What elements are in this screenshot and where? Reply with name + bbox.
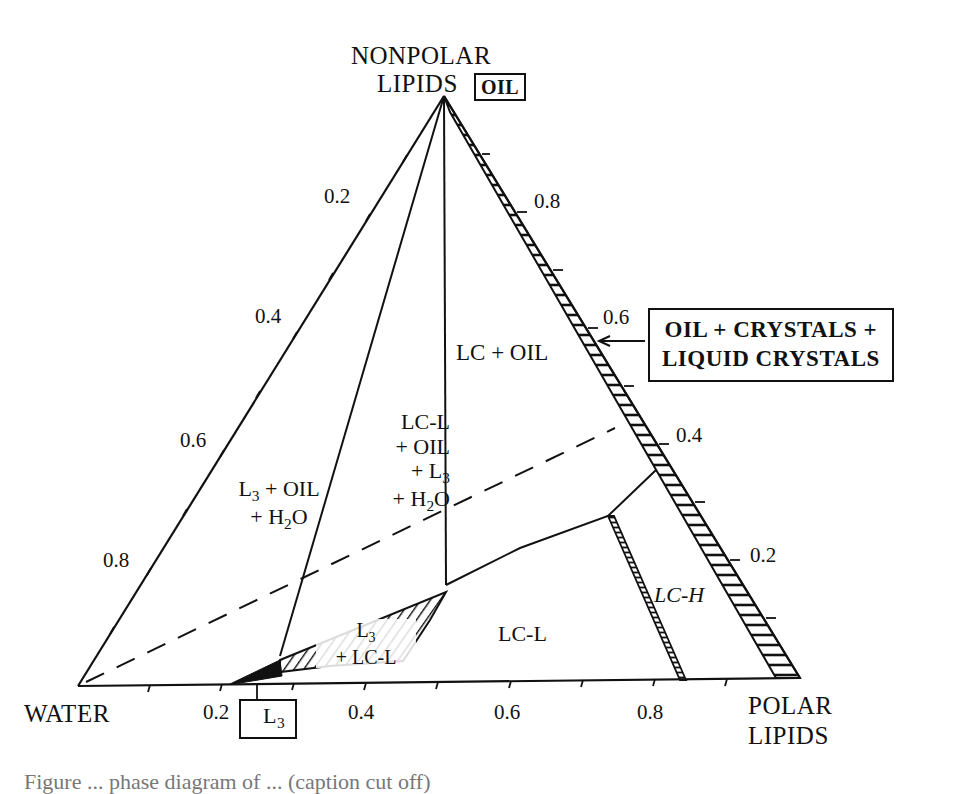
l3-box: L3	[239, 699, 297, 739]
tick-base-0.4: 0.4	[348, 702, 374, 723]
vertex-label-lipids-top: LIPIDS	[377, 71, 458, 96]
phase-boundaries	[280, 96, 656, 656]
figure-caption: Figure ... phase diagram of ... (caption…	[24, 771, 430, 793]
region-l3-oil-h2o: L3 + OIL + H2O	[214, 477, 344, 532]
region-lc-l: LC-L	[498, 622, 547, 647]
tick-left-0.2: 0.2	[324, 186, 350, 207]
oil-crystals-band	[444, 96, 800, 678]
oil-box: OIL	[474, 73, 526, 101]
tick-base-0.6: 0.6	[494, 702, 520, 723]
tick-left-0.4: 0.4	[255, 306, 281, 327]
callout-oil-crystals: OIL + CRYSTALS + LIQUID CRYSTALS	[648, 308, 894, 382]
vertex-label-lipids-bottom: LIPIDS	[748, 723, 829, 748]
tick-right-0.2: 0.2	[750, 545, 776, 566]
l3-black-wedge	[230, 660, 282, 684]
tick-right-0.8: 0.8	[534, 191, 560, 212]
region-lc-h: LC-H	[654, 583, 704, 608]
region-l3-lcl: L3 + LC-L	[316, 619, 416, 668]
tick-base-0.8: 0.8	[637, 702, 663, 723]
region-lcl-oil-l3-h2o: LC-L + OIL + L3 + H2O	[338, 410, 450, 515]
tick-left-0.6: 0.6	[180, 430, 206, 451]
tick-base-0.2: 0.2	[203, 702, 229, 723]
nonpolar-line1: NONPOLAR	[346, 43, 496, 68]
tick-right-0.6: 0.6	[603, 307, 629, 328]
vertex-label-polar: POLAR	[748, 693, 832, 718]
tick-left-0.8: 0.8	[103, 550, 129, 571]
tick-right-0.4: 0.4	[676, 425, 702, 446]
vertex-label-nonpolar: NONPOLAR	[346, 43, 496, 68]
vertex-label-water: WATER	[24, 701, 110, 726]
region-lc-oil: LC + OIL	[456, 340, 548, 366]
callout-arrow	[599, 336, 645, 346]
